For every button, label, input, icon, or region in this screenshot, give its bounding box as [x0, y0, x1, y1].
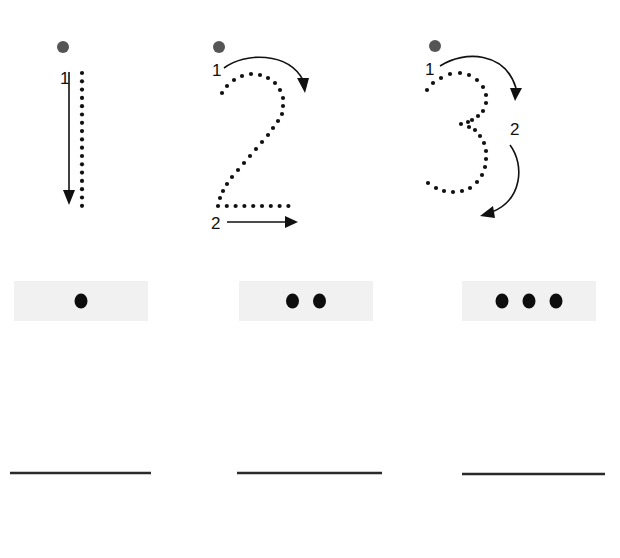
trace-dot [467, 125, 471, 129]
trace-dot [80, 88, 84, 92]
arrow-head-icon [510, 88, 522, 101]
trace-dot [80, 179, 84, 183]
trace-dot [80, 71, 84, 75]
trace-dot [484, 149, 488, 153]
trace-dot [281, 96, 285, 100]
trace-dot [232, 78, 236, 82]
trace-dot [216, 204, 220, 208]
trace-dot [278, 204, 282, 208]
trace-dot [442, 189, 446, 193]
stroke-arrow-curve [440, 56, 516, 88]
trace-path-2 [216, 72, 291, 208]
trace-dot [258, 73, 262, 77]
trace-dot [482, 141, 486, 145]
trace-dot [484, 93, 488, 97]
arrow-head-icon [480, 206, 495, 218]
trace-dot [280, 112, 284, 116]
trace-dot [273, 81, 277, 85]
trace-dot [467, 73, 471, 77]
trace-dot [80, 137, 84, 141]
count-dot [496, 294, 509, 309]
trace-dot [478, 134, 482, 138]
trace-dot [80, 204, 84, 208]
start-dot [57, 41, 69, 53]
arrow-head-icon [297, 78, 309, 93]
stroke-label: 1 [425, 60, 434, 79]
trace-dot [483, 165, 487, 169]
trace-dot [80, 187, 84, 191]
count-dot [523, 294, 536, 309]
trace-dot [458, 71, 462, 75]
count-box-1 [14, 281, 148, 321]
trace-dot [242, 204, 246, 208]
trace-dot [225, 204, 229, 208]
trace-dot [248, 154, 252, 158]
trace-dot [475, 78, 479, 82]
trace-number-2: 1 2 [211, 41, 309, 233]
trace-dot [266, 133, 270, 137]
trace-dot [80, 195, 84, 199]
trace-dot [80, 129, 84, 133]
trace-dot [276, 119, 280, 123]
trace-dot [220, 91, 224, 95]
trace-dot [484, 101, 488, 105]
trace-dot [225, 182, 229, 186]
trace-dot [460, 189, 464, 193]
trace-dot [249, 72, 253, 76]
start-dot [213, 41, 225, 53]
trace-dot [254, 147, 258, 151]
trace-dot [480, 173, 484, 177]
stroke-label: 1 [60, 69, 69, 88]
trace-dot [225, 84, 229, 88]
trace-dot [476, 114, 480, 118]
trace-dot [475, 180, 479, 184]
trace-dot [80, 96, 84, 100]
trace-number-1: 1 [57, 41, 84, 208]
trace-dot [425, 88, 429, 92]
trace-dot [470, 118, 474, 122]
tracing-worksheet: 1 1 2 1 2 [0, 0, 620, 558]
start-dot [429, 40, 441, 52]
trace-dot [240, 74, 244, 78]
trace-dot [468, 186, 472, 190]
stroke-label: 2 [211, 214, 220, 233]
trace-dot [80, 79, 84, 83]
trace-dot [80, 121, 84, 125]
trace-dot [80, 112, 84, 116]
trace-dot [466, 120, 470, 124]
trace-dot [80, 154, 84, 158]
trace-dot [278, 88, 282, 92]
count-dot [550, 294, 563, 309]
trace-dot [260, 204, 264, 208]
trace-dot [236, 168, 240, 172]
trace-dot [80, 171, 84, 175]
trace-dot [80, 104, 84, 108]
count-box-3 [462, 281, 596, 321]
trace-path-3 [425, 71, 488, 194]
trace-dot [242, 161, 246, 165]
trace-dot [234, 204, 238, 208]
stroke-arrow-curve [492, 145, 519, 212]
trace-dot [230, 175, 234, 179]
count-dot [313, 294, 326, 309]
trace-dot [431, 81, 435, 85]
trace-dot [251, 204, 255, 208]
trace-dot [218, 196, 222, 200]
trace-dot [80, 162, 84, 166]
arrow-head-icon [285, 216, 298, 228]
trace-dot [260, 140, 264, 144]
trace-dot [221, 189, 225, 193]
trace-dot [481, 85, 485, 89]
trace-dot [266, 76, 270, 80]
trace-dot [451, 190, 455, 194]
trace-path-1 [80, 71, 84, 208]
trace-dot [269, 204, 273, 208]
stroke-arrow-curve [224, 57, 303, 80]
trace-dot [439, 76, 443, 80]
trace-dot [426, 181, 430, 185]
trace-dot [473, 128, 477, 132]
trace-dot [271, 126, 275, 130]
trace-dot [459, 122, 463, 126]
stroke-label: 1 [212, 61, 221, 80]
arrow-head-icon [63, 190, 75, 205]
